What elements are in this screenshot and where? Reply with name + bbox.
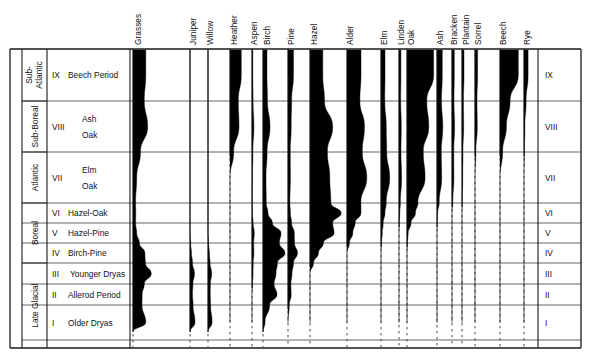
zone-numeral-VI: VI xyxy=(52,208,60,218)
taxa-header-juniper: Juniper xyxy=(189,17,198,45)
taxa-header-alder: Alder xyxy=(346,25,355,45)
period-label-sub-boreal: Sub-Boreal xyxy=(30,105,40,147)
zone-name-primary: Younger Dryas xyxy=(70,269,125,279)
taxa-header-aspen: Aspen xyxy=(250,21,259,45)
zone-numeral-I: I xyxy=(52,318,54,328)
right-zone-numeral-I: I xyxy=(545,318,547,328)
taxa-header-heather: Heather xyxy=(230,15,239,45)
zone-numeral-III: III xyxy=(52,269,59,279)
period-label-atlantic: Atlantic xyxy=(30,164,40,191)
period-label-boreal: Boreal xyxy=(30,221,40,245)
zone-name-primary: Beech Period xyxy=(68,70,119,80)
period-label-late-glacial: Late Glacial xyxy=(30,283,40,327)
period-label-atlantic: Atlantic xyxy=(34,61,44,88)
zone-numeral-IX: IX xyxy=(52,70,60,80)
taxa-header-linden: Linden xyxy=(397,19,406,45)
taxa-header-elm: Elm xyxy=(380,31,389,45)
zone-name-primary: Birch-Pine xyxy=(68,248,107,258)
zone-numeral-II: II xyxy=(52,290,57,300)
taxa-header-bracken: Bracken xyxy=(450,14,459,45)
zone-name-primary: Hazel-Oak xyxy=(68,208,108,218)
pollen-diagram-svg: GrassesJuniperWillowHeatherAspenBirchPin… xyxy=(0,0,591,359)
period-label-sub: Sub- xyxy=(24,66,34,84)
zone-numeral-VII: VII xyxy=(52,173,62,183)
taxa-header-beech: Beech xyxy=(499,21,508,45)
zone-numeral-VIII: VIII xyxy=(52,122,65,132)
zone-name-primary: Allerod Period xyxy=(68,290,121,300)
right-zone-numeral-IX: IX xyxy=(545,70,553,80)
zone-numeral-V: V xyxy=(52,228,58,238)
right-zone-numeral-VI: VI xyxy=(545,208,553,218)
zone-name-primary: Ash xyxy=(82,114,97,124)
zone-name-primary: Hazel-Pine xyxy=(68,228,109,238)
taxa-header-rye: Rye xyxy=(523,30,532,45)
taxa-header-pine: Pine xyxy=(287,28,296,45)
zone-name-secondary: Oak xyxy=(82,130,98,140)
right-zone-numeral-III: III xyxy=(545,269,552,279)
right-zone-numeral-IV: IV xyxy=(545,248,553,258)
taxa-header-oak: Oak xyxy=(407,29,416,45)
taxa-header-sorrel: Sorrel xyxy=(474,22,483,45)
taxa-header-grasses: Grasses xyxy=(134,14,143,45)
zone-name-primary: Elm xyxy=(82,165,96,175)
zone-name-primary: Older Dryas xyxy=(68,318,113,328)
taxa-header-hazel: Hazel xyxy=(310,23,319,45)
right-zone-numeral-II: II xyxy=(545,290,550,300)
zone-numeral-IV: IV xyxy=(52,248,60,258)
right-zone-numeral-VII: VII xyxy=(545,173,555,183)
right-zone-numeral-VIII: VIII xyxy=(545,122,558,132)
taxa-header-plantain: Plantain xyxy=(462,14,471,45)
taxa-header-ash: Ash xyxy=(436,30,445,45)
pollen-diagram-figure: GrassesJuniperWillowHeatherAspenBirchPin… xyxy=(0,0,591,359)
right-zone-numeral-V: V xyxy=(545,228,551,238)
taxa-header-birch: Birch xyxy=(263,25,272,45)
zone-name-secondary: Oak xyxy=(82,181,98,191)
taxa-header-willow: Willow xyxy=(206,21,215,45)
